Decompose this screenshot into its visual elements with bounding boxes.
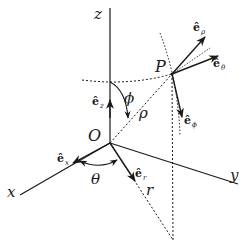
spherical-coordinates-diagram: z x y O P ϕ ρ θ r ê z ê x ê r ê ρ ê θ ê … [0,0,243,247]
y-axis [110,143,238,184]
theta-label: θ [91,170,100,188]
meridian-arc [160,33,180,135]
svg-text:ê: ê [135,167,142,180]
svg-text:ê: ê [92,95,99,108]
svg-text:ê: ê [193,21,200,34]
e-phi-arrow [172,74,182,117]
z-axis-label: z [93,5,102,23]
svg-text:ϕ: ϕ [192,121,197,129]
e-x-arrow [73,143,110,163]
svg-text:θ: θ [221,64,226,72]
point-p-marker [171,73,174,76]
e-phi-label: ê ϕ [184,114,197,129]
svg-text:ê: ê [213,57,220,70]
e-theta-label: ê θ [213,57,226,72]
x-axis-label: x [7,183,16,201]
svg-text:ê: ê [57,152,64,165]
svg-text:x: x [65,159,69,167]
origin-label: O [88,126,101,145]
phi-label: ϕ [124,89,134,107]
svg-text:z: z [99,102,104,110]
e-z-label: ê z [92,95,104,110]
vertical-drop-line [172,74,173,240]
svg-text:ê: ê [184,114,191,127]
rho-label: ρ [138,104,148,122]
e-r-label: ê r [135,167,147,182]
r-label: r [146,181,154,199]
svg-text:ρ: ρ [200,28,206,36]
e-rho-label: ê ρ [193,21,206,36]
e-rho-arrow [172,37,205,74]
theta-arc [80,160,117,165]
e-x-label: ê x [57,152,69,167]
y-axis-label: y [229,166,239,184]
point-p-label: P [154,57,166,76]
